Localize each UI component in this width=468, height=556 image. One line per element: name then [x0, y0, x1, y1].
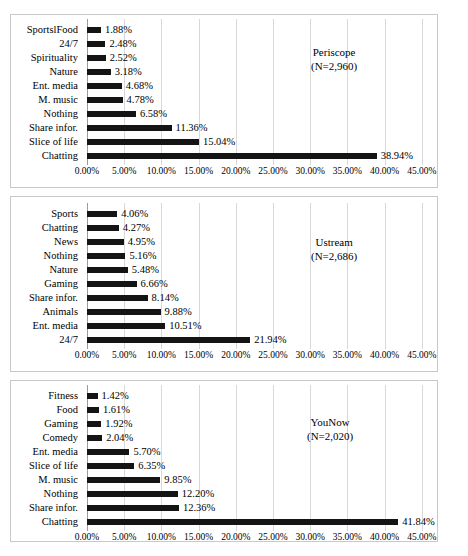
bar-row: Sports4.06%	[11, 207, 437, 221]
bar-value-label: 38.94%	[381, 149, 413, 163]
x-tick-label: 40.00%	[370, 164, 399, 178]
figure-container: SportslFood1.88%24/72.48%Spirituality2.5…	[0, 0, 468, 556]
category-label: M. music	[38, 93, 78, 107]
bar-row: Gaming6.66%	[11, 277, 437, 291]
bar-row: Nothing5.16%	[11, 249, 437, 263]
bar-value-label: 4.95%	[128, 235, 155, 249]
category-label: Slice of life	[29, 459, 78, 473]
bar-value-label: 1.42%	[102, 389, 129, 403]
bar	[87, 69, 111, 75]
series-sample-size: (N=2,686)	[311, 249, 357, 263]
chart-panel-periscope: SportslFood1.88%24/72.48%Spirituality2.5…	[10, 14, 438, 188]
category-label: 24/7	[59, 37, 78, 51]
bar-value-label: 6.35%	[138, 459, 165, 473]
bar	[87, 337, 250, 343]
bar-value-label: 4.06%	[121, 207, 148, 221]
x-tick-label: 5.00%	[112, 348, 137, 362]
x-tick-label: 20.00%	[221, 164, 250, 178]
x-tick-label: 15.00%	[184, 348, 213, 362]
bar-value-label: 5.16%	[129, 249, 156, 263]
x-tick-label: 45.00%	[407, 348, 436, 362]
x-tick-label: 0.00%	[75, 348, 100, 362]
series-name: Ustream	[311, 235, 357, 249]
x-tick-label: 10.00%	[147, 164, 176, 178]
bar-row: Ent. media5.70%	[11, 445, 437, 459]
bar-row: Share infor.8.14%	[11, 291, 437, 305]
bar	[87, 323, 165, 329]
x-tick-label: 10.00%	[147, 530, 176, 544]
bar	[87, 41, 105, 47]
series-name: YouNow	[307, 415, 353, 429]
bar	[87, 211, 117, 217]
series-annotation: Ustream(N=2,686)	[311, 235, 357, 263]
bar	[87, 435, 102, 441]
category-label: Share infor.	[29, 501, 78, 515]
bar	[87, 55, 106, 61]
bar-row: Slice of life15.04%	[11, 135, 437, 149]
bar-value-label: 5.70%	[133, 445, 160, 459]
series-sample-size: (N=2,020)	[307, 429, 353, 443]
bar	[87, 477, 160, 483]
bar	[87, 281, 137, 287]
bar-value-label: 9.85%	[164, 473, 191, 487]
bar	[87, 519, 398, 525]
bar-value-label: 1.88%	[105, 23, 132, 37]
category-label: Nature	[49, 65, 78, 79]
bar-row: Slice of life6.35%	[11, 459, 437, 473]
category-label: Comedy	[42, 431, 78, 445]
plot-area-periscope: SportslFood1.88%24/72.48%Spirituality2.5…	[11, 15, 437, 187]
x-tick-label: 15.00%	[184, 530, 213, 544]
series-name: Periscope	[311, 45, 357, 59]
category-label: Ent. media	[33, 445, 79, 459]
bar	[87, 253, 125, 259]
x-tick-label: 10.00%	[147, 348, 176, 362]
x-tick-label: 30.00%	[296, 348, 325, 362]
category-label: Share infor.	[29, 121, 78, 135]
series-sample-size: (N=2,960)	[311, 59, 357, 73]
bar-row: Chatting41.84%	[11, 515, 437, 529]
bar-value-label: 6.66%	[141, 277, 168, 291]
bar-row: Chatting4.27%	[11, 221, 437, 235]
bar-value-label: 15.04%	[203, 135, 235, 149]
chart-panel-younow: Fitness1.42%Food1.61%Gaming1.92%Comedy2.…	[10, 380, 438, 542]
plot-area-ustream: Sports4.06%Chatting4.27%News4.95%Nothing…	[11, 197, 437, 371]
bar-value-label: 5.48%	[132, 263, 159, 277]
bar-row: Chatting38.94%	[11, 149, 437, 163]
bar	[87, 225, 119, 231]
x-tick-label: 25.00%	[258, 164, 287, 178]
x-tick-label: 0.00%	[75, 530, 100, 544]
plot-area-younow: Fitness1.42%Food1.61%Gaming1.92%Comedy2.…	[11, 381, 437, 541]
x-axis: 0.00%5.00%10.00%15.00%20.00%25.00%30.00%…	[11, 348, 437, 362]
x-tick-label: 30.00%	[296, 164, 325, 178]
bar-value-label: 4.68%	[126, 79, 153, 93]
x-tick-label: 35.00%	[333, 348, 362, 362]
x-tick-label: 0.00%	[75, 164, 100, 178]
x-tick-label: 30.00%	[296, 530, 325, 544]
category-label: Ent. media	[33, 319, 79, 333]
bar-row: 24/721.94%	[11, 333, 437, 347]
category-label: Share infor.	[29, 291, 78, 305]
bar-row: Spirituality2.52%	[11, 51, 437, 65]
bar	[87, 97, 123, 103]
bar-rows: SportslFood1.88%24/72.48%Spirituality2.5…	[11, 23, 437, 163]
bar	[87, 295, 148, 301]
category-label: M. music	[38, 473, 78, 487]
bar-row: Nothing6.58%	[11, 107, 437, 121]
bar-value-label: 6.58%	[140, 107, 167, 121]
category-label: 24/7	[59, 333, 78, 347]
chart-panel-ustream: Sports4.06%Chatting4.27%News4.95%Nothing…	[10, 196, 438, 372]
category-label: Nature	[49, 263, 78, 277]
x-tick-label: 45.00%	[407, 164, 436, 178]
bar-value-label: 2.52%	[110, 51, 137, 65]
bar	[87, 393, 98, 399]
x-tick-label: 20.00%	[221, 348, 250, 362]
x-tick-label: 5.00%	[112, 530, 137, 544]
bar	[87, 27, 101, 33]
category-label: Chatting	[42, 221, 78, 235]
bar-value-label: 2.04%	[106, 431, 133, 445]
category-label: Animals	[42, 305, 78, 319]
bar-value-label: 21.94%	[254, 333, 286, 347]
bar	[87, 505, 179, 511]
x-tick-label: 40.00%	[370, 530, 399, 544]
category-label: Sports	[51, 207, 78, 221]
